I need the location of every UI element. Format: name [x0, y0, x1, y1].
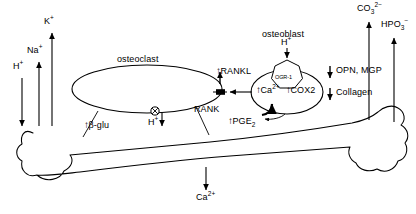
intracellular-calcium-label: ↑Ca2+	[256, 85, 280, 95]
pge2-feedback-arrow	[265, 114, 285, 119]
collagen-label: Collagen	[336, 88, 372, 97]
beta-glucuronidase-label: ↑β-glu	[84, 120, 109, 130]
cox2-label: ↑COX2	[286, 85, 315, 95]
potassium-label: K+	[44, 17, 54, 26]
calcium-release-label: Ca2+	[196, 193, 215, 202]
sodium-label: Na+	[27, 46, 43, 55]
pge2-label: ↑PGE2	[228, 116, 256, 126]
osteoblast-proton-label: H+	[281, 38, 292, 47]
proton-pump-label: H+	[148, 118, 159, 127]
rank-label: RANK	[194, 105, 219, 114]
hydrogen-influx-label: H+	[13, 62, 24, 71]
osteoclast-label: osteoclast	[117, 55, 159, 64]
opn-mgp-label: OPN, MGP	[336, 66, 382, 75]
phosphate-label: HPO3−	[381, 20, 408, 29]
ogr1-label: OGR-1	[275, 74, 292, 80]
proton-pump-icon	[151, 107, 159, 115]
carbonate-label: CO32−	[357, 4, 382, 13]
bone-outline	[17, 106, 408, 179]
figure-canvas: H+ Na+ K+ CO32− HPO3− osteoclast osteobl…	[0, 0, 416, 214]
rankl-label: ↑RANKL	[216, 66, 251, 76]
